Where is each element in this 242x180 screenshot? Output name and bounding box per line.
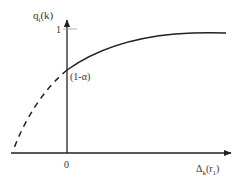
origin-label: 0 (64, 159, 69, 170)
y-axis-label: qi(k) (33, 9, 54, 24)
dashed-curve (13, 70, 67, 151)
x-axis-label: Δk(r1) (196, 163, 219, 177)
diagram-canvas: qi(k) 1 (1-α) 0 Δk(r1) (0, 0, 242, 180)
y-tick-label: 1 (56, 24, 61, 35)
solid-curve (67, 33, 226, 70)
intercept-label: (1-α) (70, 71, 90, 83)
